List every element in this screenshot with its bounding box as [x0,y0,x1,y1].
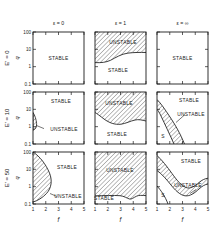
column-header-eps-1: ε = 1 [115,20,126,26]
region-annotation-unstable: UNSTABLE [54,194,82,199]
x-tick-2-c2: 2 [106,207,109,212]
region-label-stable: STABLE [49,56,69,61]
y-tick-100-r1: 100 [23,30,31,35]
region-label-stable: STABLE [179,98,199,103]
region-label-stable: STABLE [57,165,77,170]
y-tick-10-r3: 10 [26,167,32,172]
panel-eprime50-epsinf: STABLE UNSTABLE S [157,152,208,204]
row-label-eprime-0: E' = 0 [4,50,10,66]
y-tick-1-r3: 1 [28,184,31,189]
panel-eprime10-eps1: UNSTABLE STABLE [95,92,146,144]
x-tick-3-c1: 3 [57,207,60,212]
y-tick-10-r1: 10 [26,47,32,52]
x-tick-3-c2: 3 [119,207,122,212]
region-label-unstable: UNSTABLE [109,40,137,45]
y-tick-1-r2: 1 [28,124,31,129]
y-tick-10-r2: 10 [26,107,32,112]
panel-eprime10-epsinf: STABLE UNSTABLE S [157,92,208,144]
y-tick-01-r2: 0.1 [25,142,32,147]
region-label-stable: STABLE [173,56,193,61]
region-label-stable: STABLE [51,99,71,104]
x-tick-5-c1: 5 [83,207,86,212]
y-tick-100-r2: 100 [23,90,31,95]
region-label-stable: STABLE [94,196,114,201]
region-label-unstable: UNSTABLE [174,183,202,188]
row-label-eprime-10: E' = 10 [4,108,10,127]
stability-diagram-figure: ε = 0 ε = 1 ε = ∞ E' = 0 E' = 10 E' = 50… [0,0,224,239]
x-tick-5-c2: 5 [145,207,148,212]
y-tick-1-r1: 1 [28,64,31,69]
panel-eprime50-eps1: UNSTABLE STABLE [94,152,146,204]
region-label-stable: STABLE [108,68,128,73]
column-header-eps-inf: ε = ∞ [177,20,189,26]
panel-eprime0-epsinf: STABLE [157,32,208,84]
region-label-stable-small: S [161,134,165,139]
x-tick-2-c3: 2 [168,207,171,212]
region-label-stable: STABLE [181,159,201,164]
x-tick-4-c2: 4 [132,207,135,212]
region-label-stable-small: S [161,193,165,198]
region-annotation-unstable: UNSTABLE [50,127,78,132]
x-tick-4-c3: 4 [194,207,197,212]
x-tick-4-c1: 4 [70,207,73,212]
y-tick-01-r3: 0.1 [25,202,32,207]
y-tick-100-r3: 100 [23,150,31,155]
row-label-eprime-50: E' = 50 [4,168,10,187]
x-tick-1-c2: 1 [94,207,97,212]
column-header-eps-0: ε = 0 [53,20,64,26]
panel-eprime0-eps1: UNSTABLE STABLE [95,32,146,84]
x-tick-5-c3: 5 [207,207,210,212]
region-label-stable: STABLE [107,132,127,137]
y-tick-01-r1: 0.1 [25,82,32,87]
unstable-region [95,152,146,199]
region-annotation-unstable: UNSTABLE [177,112,205,117]
x-tick-1-c3: 1 [156,207,159,212]
x-tick-3-c3: 3 [181,207,184,212]
x-tick-1-c1: 1 [32,207,35,212]
region-label-unstable: UNSTABLE [105,101,133,106]
region-label-unstable: UNSTABLE [106,168,134,173]
x-tick-2-c1: 2 [44,207,47,212]
